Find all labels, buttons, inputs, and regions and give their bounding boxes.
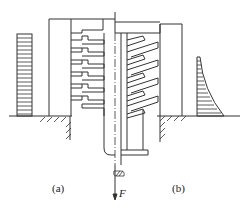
thread-turns-b <box>127 33 158 150</box>
housing-a <box>49 12 115 155</box>
thread-turns-a <box>71 33 115 155</box>
thread-load-diagram <box>0 0 250 211</box>
force-arrow <box>113 165 117 200</box>
subfigure-label-a: (a) <box>52 182 64 194</box>
uniform-load-distribution <box>17 34 32 116</box>
force-label: F <box>119 187 126 199</box>
housing-b <box>115 22 182 165</box>
nonuniform-load-distribution <box>197 57 224 116</box>
ground-hatch-left <box>40 117 71 139</box>
ground-hatch-right <box>160 116 186 139</box>
subfigure-label-b: (b) <box>172 182 185 194</box>
